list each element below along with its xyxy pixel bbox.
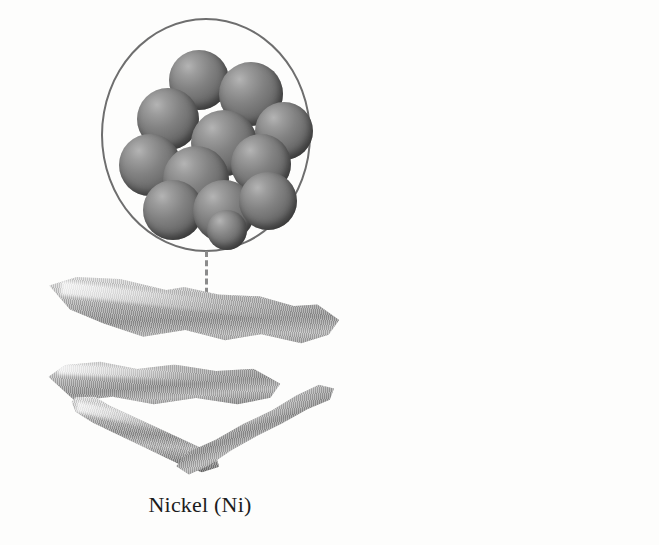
nickel-fragment — [43, 270, 341, 375]
atomic-structure-circle-nickel — [101, 18, 311, 252]
atom-cluster-nickel — [107, 30, 309, 250]
caption-nickel: Nickel (Ni) — [60, 492, 340, 518]
panel-nickel: Nickel (Ni) — [0, 0, 360, 545]
panel-zinc: Zinc (Zn) — [360, 0, 659, 545]
nickel-atom — [207, 210, 247, 250]
nickel-atom — [239, 172, 297, 230]
element-comparison-figure: Nickel (Ni) Zinc (Zn) — [0, 0, 659, 545]
